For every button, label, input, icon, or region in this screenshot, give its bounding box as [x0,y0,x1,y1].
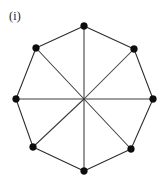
graph-vertex-upper-right [131,46,138,53]
graph-vertex-top [81,23,88,30]
graph-edge-upper-left-top [36,26,84,48]
graph-vertex-lower-right [128,146,135,153]
graph-vertex-upper-left [33,45,40,52]
graph-vertex-right [150,96,157,103]
graph-diagonal-center-upper-left [36,48,84,99]
graph-vertex-lower-left [30,144,37,151]
octagon-graph-diagram [0,0,166,184]
graph-diagonal-lower-right-center [84,99,131,149]
graph-diagonal-center-lower-left [33,99,84,147]
graph-edge-lower-left-left [16,99,33,147]
graph-diagonal-upper-right-center [84,49,134,99]
graph-edge-bottom-lower-left [33,147,84,171]
graph-edge-right-lower-right [131,99,153,149]
graph-edge-top-upper-right [84,26,134,49]
graph-vertex-bottom [81,168,88,175]
figure-container: (i) [0,0,166,184]
graph-edge-lower-right-bottom [84,149,131,171]
graph-vertex-left [13,96,20,103]
graph-edge-left-upper-left [16,48,36,99]
graph-edge-upper-right-right [134,49,153,99]
